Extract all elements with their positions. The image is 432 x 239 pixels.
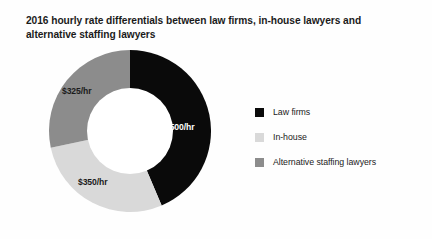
legend-label-in-house: In-house xyxy=(273,132,307,143)
legend-label-law-firms: Law firms xyxy=(273,107,310,118)
legend-swatch-law-firms xyxy=(255,108,264,117)
legend-item-law-firms[interactable]: Law firms xyxy=(255,107,420,118)
legend-item-alternative-staffing[interactable]: Alternative staffing lawyers xyxy=(255,157,420,168)
chart-title-line-1: 2016 hourly rate differentials between l… xyxy=(26,15,340,26)
chart-card: 2016 hourly rate differentials between l… xyxy=(0,0,432,239)
slice-label-law-firms: $500/hr xyxy=(165,122,194,132)
slice-label-in-house: $350/hr xyxy=(78,177,107,187)
legend-label-alternative-staffing: Alternative staffing lawyers xyxy=(273,157,376,168)
legend-item-in-house[interactable]: In-house xyxy=(255,132,420,143)
chart-title: 2016 hourly rate differentials between l… xyxy=(26,14,398,41)
donut-hole xyxy=(87,88,173,174)
legend-swatch-in-house xyxy=(255,133,264,142)
chart-legend: Law firms In-house Alternative staffing … xyxy=(255,107,420,168)
slice-label-alternative-staffing: $325/hr xyxy=(62,86,91,96)
legend-swatch-alternative-staffing xyxy=(255,158,264,167)
